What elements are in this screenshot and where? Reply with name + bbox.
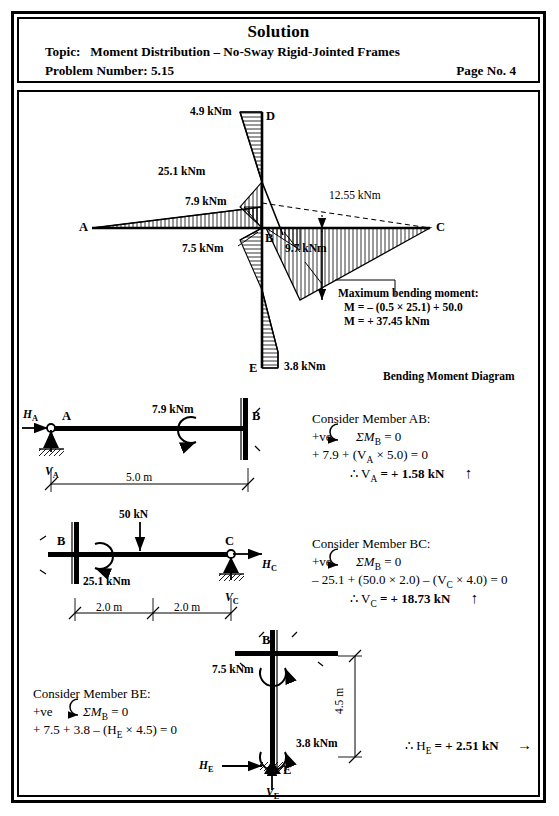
fbd-ab-ha-sym: H [23, 408, 32, 420]
fbd-bc-label-moment: 25.1 kNm [83, 576, 130, 588]
bmd-max-line1: M = – (0.5 × 25.1) + 50.0 [344, 302, 463, 314]
topic-label: Topic: [45, 44, 80, 59]
bmd-label-b-col-moment: 25.1 kNm [158, 166, 205, 178]
fbd-bc-dim-left: 2.0 m [96, 602, 122, 614]
calc-ab-arrow-icon: ↑ [465, 465, 473, 481]
calc-bc-heading: Consider Member BC: [312, 537, 430, 550]
calc-be-sum-eq: = 0 [108, 704, 128, 719]
fbd-ab-label-va: VA [45, 466, 59, 481]
problem-line: Problem Number: 5.15 [45, 63, 174, 79]
page-title: Solution [19, 22, 538, 42]
problem-number: 5.15 [151, 63, 174, 78]
bmd-label-ab-moment: 7.9 kNm [185, 196, 227, 208]
calc-ab-sign-line: +ve ΣMB = 0 [312, 430, 401, 447]
calc-be-res-pre: ∴ H [405, 738, 426, 753]
fbd-ab-point-a: A [62, 410, 71, 423]
calc-be-heading: Consider Member BE: [33, 687, 151, 700]
fbd-bc-dim-right: 2.0 m [174, 602, 200, 614]
bmd-label-bc-moment: 9.7 kNm [285, 243, 327, 255]
calc-be-equation: + 7.5 + 3.8 – (HE × 4.5) = 0 [33, 723, 177, 740]
fbd-ab-label-span: 5.0 m [126, 472, 152, 484]
bmd-caption: Bending Moment Diagram [383, 370, 515, 382]
fbd-be-label-moment-e: 3.8 kNm [296, 738, 338, 750]
header-box: Solution Topic: Moment Distribution – No… [17, 17, 540, 83]
fbd-be-label-he: HE [199, 760, 213, 775]
fbd-be-label-height: 4.5 m [334, 688, 346, 714]
bmd-max-heading: Maximum bending moment: [338, 288, 479, 300]
bmd-point-d: D [266, 110, 275, 123]
fbd-be-point-e: E [283, 764, 291, 777]
page-number: Page No. 4 [456, 63, 516, 79]
calc-ab-result: ∴ VA = + 1.58 kN ↑ [350, 466, 472, 484]
fbd-ab-label-moment: 7.9 kNm [152, 404, 194, 416]
calc-bc-res-pre: ∴ V [350, 591, 370, 606]
fbd-bc-point-c: C [225, 535, 234, 548]
calc-ab-res-pre: ∴ V [350, 466, 370, 481]
fbd-bc-point-b: B [57, 535, 65, 548]
calc-bc-sum: ΣM [356, 554, 375, 569]
fbd-be-he-sym: H [199, 759, 208, 771]
calc-ab-equation: + 7.9 + (VA × 5.0) = 0 [312, 448, 428, 465]
calc-ab-sum-eq: = 0 [381, 429, 401, 444]
calc-bc-eq-b: × 4.0) = 0 [453, 572, 508, 587]
fbd-ab-label-ha: HA [23, 409, 38, 424]
fbd-ab-point-b: B [252, 410, 260, 423]
bmd-label-e-moment: 3.8 kNm [284, 361, 326, 373]
bmd-point-a: A [79, 221, 88, 234]
fbd-be-point-b: B [262, 634, 270, 647]
fbd-bc-label-vc: VC [225, 592, 239, 607]
calc-be-result: ∴ HE = + 2.51 kN → [405, 738, 532, 756]
calc-bc-equation: – 25.1 + (50.0 × 2.0) – (VC × 4.0) = 0 [312, 573, 508, 590]
calc-ab-eq-b: × 5.0) = 0 [373, 447, 428, 462]
fbd-bc-hc-sym: H [262, 558, 271, 570]
calc-bc-res-val: = + 18.73 kN [377, 591, 451, 606]
fbd-be-ve-sym: V [266, 786, 274, 798]
topic-text: Moment Distribution – No-Sway Rigid-Join… [90, 44, 400, 59]
calc-ab-sign: +ve [312, 429, 332, 444]
fbd-bc-label-hc: HC [262, 559, 277, 574]
bmd-label-be-moment: 7.5 kNm [182, 243, 224, 255]
bmd-label-mid-moment: 12.55 kNm [329, 190, 381, 202]
bmd-point-c: C [436, 221, 445, 234]
calc-be-sum: ΣM [83, 704, 102, 719]
fbd-bc-vc-sym: V [225, 591, 233, 603]
fbd-ab-ha-sub: A [32, 414, 38, 423]
calc-bc-sign: +ve [312, 554, 332, 569]
calc-ab-eq-a: + 7.9 + (V [312, 447, 366, 462]
calc-be-sign: +ve [33, 704, 53, 719]
calc-ab-heading: Consider Member AB: [312, 412, 430, 425]
calc-bc-sign-line: +ve ΣMB = 0 [312, 555, 401, 572]
bmd-point-b: B [265, 232, 273, 245]
problem-label: Problem Number: [45, 63, 148, 78]
calc-bc-result: ∴ VC = + 18.73 kN ↑ [350, 591, 478, 609]
bmd-max-line2: M = + 37.45 kNm [344, 316, 430, 328]
fbd-be-label-ve: VE [266, 787, 279, 802]
calc-be-eq-a: + 7.5 + 3.8 – (H [33, 722, 117, 737]
calc-be-sign-line: +ve ΣMB = 0 [33, 705, 128, 722]
calc-be-eq-b: × 4.5) = 0 [122, 722, 177, 737]
fbd-bc-hc-sub: C [271, 564, 277, 573]
calc-ab-sum: ΣM [356, 429, 375, 444]
fbd-be-ve-sub: E [274, 792, 280, 801]
fbd-ab-va-sub: A [53, 471, 59, 480]
topic-line: Topic: Moment Distribution – No-Sway Rig… [45, 44, 400, 60]
fbd-be-he-sub: E [208, 765, 214, 774]
document-page: Solution Topic: Moment Distribution – No… [0, 0, 559, 816]
calc-be-arrow-icon: → [517, 737, 532, 753]
fbd-bc-vc-sub: C [233, 597, 239, 606]
fbd-be-label-moment-b: 7.5 kNm [212, 664, 254, 676]
calc-bc-sum-eq: = 0 [381, 554, 401, 569]
bmd-label-d-moment: 4.9 kNm [190, 106, 232, 118]
bmd-point-e: E [249, 362, 257, 375]
calc-bc-eq-a: – 25.1 + (50.0 × 2.0) – (V [312, 572, 447, 587]
fbd-bc-label-load: 50 kN [119, 509, 148, 521]
calc-bc-arrow-icon: ↑ [471, 590, 479, 606]
calc-be-res-val: = + 2.51 kN [431, 738, 498, 753]
fbd-ab-va-sym: V [45, 465, 53, 477]
calc-ab-res-val: = + 1.58 kN [377, 466, 444, 481]
